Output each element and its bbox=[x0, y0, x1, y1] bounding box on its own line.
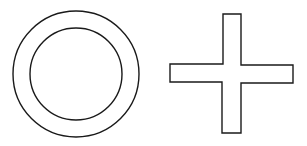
ring-shape bbox=[13, 11, 139, 137]
diagram-canvas bbox=[0, 0, 307, 146]
cross-outline bbox=[170, 14, 293, 133]
inner-circle bbox=[30, 28, 122, 120]
cross-shape bbox=[170, 14, 293, 133]
outer-circle bbox=[13, 11, 139, 137]
